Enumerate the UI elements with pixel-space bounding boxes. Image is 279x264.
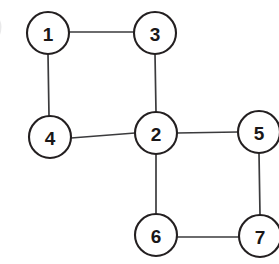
- graph-node-1[interactable]: 1: [27, 12, 69, 54]
- graph-node-4[interactable]: 4: [29, 116, 71, 158]
- edge-3-2[interactable]: [155, 54, 156, 112]
- node-label-3: 3: [150, 24, 161, 45]
- diagram-canvas: 1234567: [0, 0, 279, 264]
- edge-1-4[interactable]: [48, 54, 49, 116]
- graph-node-6[interactable]: 6: [135, 214, 177, 256]
- node-label-1: 1: [43, 24, 54, 45]
- graph-node-5[interactable]: 5: [238, 111, 279, 153]
- node-label-7: 7: [255, 227, 266, 248]
- edge-2-5[interactable]: [177, 132, 238, 133]
- node-label-2: 2: [151, 124, 162, 145]
- graph-diagram: 1234567: [0, 0, 279, 264]
- node-label-5: 5: [254, 123, 265, 144]
- graph-node-7[interactable]: 7: [239, 215, 279, 257]
- edge-5-7[interactable]: [259, 153, 260, 215]
- scan-edge-artifact: [0, 20, 2, 35]
- graph-node-3[interactable]: 3: [134, 12, 176, 54]
- edge-4-2[interactable]: [71, 133, 135, 138]
- node-label-6: 6: [151, 226, 162, 247]
- node-label-4: 4: [45, 128, 56, 149]
- graph-node-2[interactable]: 2: [135, 112, 177, 154]
- nodes-layer: 1234567: [27, 12, 279, 257]
